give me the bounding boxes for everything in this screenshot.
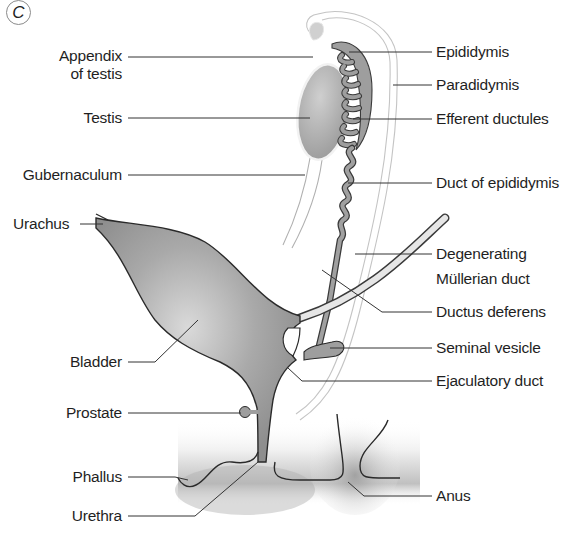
label-line: Müllerian duct — [436, 270, 530, 288]
label-line: Ejaculatory duct — [436, 372, 543, 390]
label-duct-of-epididymis: Duct of epididymis — [436, 174, 559, 192]
label-efferent-ductules: Efferent ductules — [436, 110, 549, 128]
label-urethra: Urethra — [72, 507, 122, 525]
label-line: Epididymis — [436, 43, 509, 61]
label-line: Ductus deferens — [436, 303, 546, 321]
label-line: Bladder — [70, 353, 122, 371]
gubernaculum — [283, 158, 322, 248]
label-urachus: Urachus — [13, 215, 69, 233]
label-line: Appendix — [59, 47, 122, 65]
prostate-shape — [240, 407, 259, 418]
label-line: Testis — [84, 109, 122, 127]
label-phallus: Phallus — [73, 468, 122, 486]
label-ejaculatory-duct: Ejaculatory duct — [436, 372, 543, 390]
label-line: Degenerating — [436, 245, 530, 263]
degenerating-mullerian-duct-shape — [300, 218, 445, 318]
label-line: Phallus — [73, 468, 122, 486]
label-testis: Testis — [84, 109, 122, 127]
label-anus: Anus — [436, 487, 471, 505]
label-gubernaculum: Gubernaculum — [23, 166, 122, 184]
label-line: Prostate — [66, 404, 122, 422]
label-bladder: Bladder — [70, 353, 122, 371]
label-line: Seminal vesicle — [436, 339, 541, 357]
label-prostate: Prostate — [66, 404, 122, 422]
label-degenerating-mullerian-duct: Degenerating Müllerian duct — [436, 245, 530, 288]
label-line: Duct of epididymis — [436, 174, 559, 192]
label-appendix-of-testis: Appendix of testis — [59, 47, 122, 83]
label-paradidymis: Paradidymis — [436, 76, 519, 94]
label-ductus-deferens: Ductus deferens — [436, 303, 546, 321]
label-line: Anus — [436, 487, 471, 505]
label-line: Urethra — [72, 507, 122, 525]
label-line: Gubernaculum — [23, 166, 122, 184]
appendix-of-testis-shape — [310, 22, 324, 40]
label-line: Paradidymis — [436, 76, 519, 94]
label-line: Urachus — [13, 215, 69, 233]
label-epididymis: Epididymis — [436, 43, 509, 61]
label-seminal-vesicle: Seminal vesicle — [436, 339, 541, 357]
label-line: of testis — [59, 65, 122, 83]
duct-of-epididymis-shape — [318, 148, 353, 350]
label-line: Efferent ductules — [436, 110, 549, 128]
